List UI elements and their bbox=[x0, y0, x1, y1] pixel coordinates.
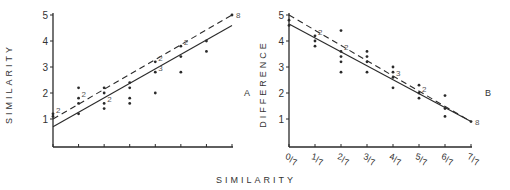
data-point bbox=[314, 40, 317, 43]
y-tick-label: 2 bbox=[42, 88, 48, 99]
data-point bbox=[231, 14, 234, 17]
data-point bbox=[77, 86, 80, 89]
point-count-label: 2 bbox=[318, 28, 323, 37]
y-tick-label: 2 bbox=[278, 88, 284, 99]
x-tick-label: 4/7 bbox=[387, 151, 403, 168]
data-point bbox=[288, 24, 291, 27]
y-axis-label: SIMILARITY bbox=[4, 44, 14, 124]
data-point bbox=[392, 71, 395, 74]
y-tick-label: 5 bbox=[42, 10, 48, 21]
point-count-label: 2 bbox=[344, 43, 349, 52]
data-point bbox=[366, 71, 369, 74]
data-point bbox=[77, 112, 80, 115]
data-point bbox=[179, 45, 182, 48]
y-tick-label: 4 bbox=[278, 36, 284, 47]
data-point bbox=[288, 19, 291, 22]
y-tick-label: 3 bbox=[278, 62, 284, 73]
data-point bbox=[392, 66, 395, 69]
data-point bbox=[470, 120, 473, 123]
x-tick-label: 3/7 bbox=[361, 151, 377, 168]
data-point bbox=[366, 55, 369, 58]
data-point bbox=[314, 45, 317, 48]
data-point bbox=[340, 29, 343, 32]
data-point bbox=[154, 92, 157, 95]
data-point bbox=[77, 102, 80, 105]
data-point bbox=[103, 92, 106, 95]
data-point bbox=[340, 55, 343, 58]
y-tick-label: 5 bbox=[278, 10, 284, 21]
x-tick-label: 0/7 bbox=[283, 151, 299, 168]
data-point bbox=[154, 71, 157, 74]
data-point bbox=[340, 71, 343, 74]
x-tick-label: 6/7 bbox=[439, 151, 455, 168]
data-point bbox=[340, 50, 343, 53]
data-point bbox=[128, 97, 131, 100]
data-point bbox=[366, 60, 369, 63]
data-point bbox=[444, 115, 447, 118]
data-point bbox=[418, 97, 421, 100]
point-count-label: 2 bbox=[107, 95, 112, 104]
figure: 12345SIMILARITYA2222328 123450/71/72/73/… bbox=[0, 0, 510, 190]
data-point bbox=[128, 86, 131, 89]
point-count-label: 2 bbox=[422, 85, 427, 94]
data-point bbox=[205, 40, 208, 43]
data-point bbox=[103, 107, 106, 110]
point-count-label: 8 bbox=[475, 118, 480, 127]
point-count-label: 8 bbox=[236, 11, 241, 20]
y-tick-label: 3 bbox=[42, 62, 48, 73]
point-count-label: 2 bbox=[184, 38, 189, 47]
x-tick-label: 2/7 bbox=[335, 151, 351, 168]
panel-label: B bbox=[485, 88, 491, 98]
x-tick-label: 5/7 bbox=[413, 151, 429, 168]
data-point bbox=[418, 92, 421, 95]
panel-label: A bbox=[244, 88, 250, 98]
point-count-label: 3 bbox=[158, 64, 163, 73]
data-point bbox=[392, 76, 395, 79]
data-point bbox=[103, 86, 106, 89]
y-tick-label: 4 bbox=[42, 36, 48, 47]
data-point bbox=[103, 102, 106, 105]
data-point bbox=[340, 60, 343, 63]
data-point bbox=[366, 50, 369, 53]
y-tick-label: 1 bbox=[42, 114, 48, 125]
fit-dashed-line bbox=[289, 15, 471, 122]
chart-panel-b: 123450/71/72/73/74/75/76/77/7DIFFERENCEB… bbox=[258, 10, 491, 168]
data-point bbox=[444, 94, 447, 97]
fit-solid-line bbox=[289, 24, 471, 122]
data-point bbox=[128, 81, 131, 84]
data-point bbox=[418, 84, 421, 87]
chart-panel-a: 12345SIMILARITYA2222328 bbox=[4, 10, 250, 148]
data-point bbox=[154, 60, 157, 63]
y-tick-label: 1 bbox=[278, 114, 284, 125]
data-point bbox=[52, 112, 55, 115]
point-count-label: 2 bbox=[56, 106, 61, 115]
point-count-label: 3 bbox=[396, 69, 401, 78]
x-tick-label: 1/7 bbox=[309, 151, 325, 168]
data-point bbox=[179, 55, 182, 58]
data-point bbox=[444, 107, 447, 110]
y-axis-label: DIFFERENCE bbox=[258, 40, 268, 128]
point-count-label: 2 bbox=[158, 54, 163, 63]
data-point bbox=[52, 115, 55, 118]
data-point bbox=[314, 34, 317, 37]
x-tick-label: 7/7 bbox=[465, 151, 481, 168]
data-point bbox=[128, 102, 131, 105]
point-count-label: 2 bbox=[82, 90, 87, 99]
data-point bbox=[205, 50, 208, 53]
data-point bbox=[77, 97, 80, 100]
shared-x-axis-label: SIMILARITY bbox=[216, 175, 296, 185]
data-point bbox=[392, 86, 395, 89]
data-point bbox=[179, 71, 182, 74]
